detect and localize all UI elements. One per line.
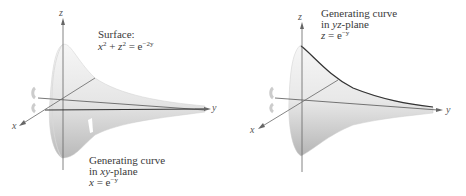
surface-equation: x2 + z2 = e−2y: [98, 41, 153, 52]
left-diagram-panel: z y x Surface: x2 + z2 = e−2y Generating…: [0, 0, 233, 196]
right-diagram-panel: z y x Generating curve in yz-plane z = e…: [233, 0, 466, 196]
y-axis-label: y: [212, 102, 216, 113]
z-axis-label: z: [59, 7, 63, 18]
surface-label: Surface:: [98, 29, 135, 40]
generating-curve-label: Generating curve in xy-plane x = e−y: [89, 155, 165, 188]
generating-curve-label: Generating curve in yz-plane z = e−y: [321, 8, 397, 41]
z-axis-label: z: [298, 11, 302, 22]
x-axis-label: x: [250, 124, 254, 135]
y-axis-label: y: [446, 104, 450, 115]
x-axis-label: x: [12, 120, 16, 131]
